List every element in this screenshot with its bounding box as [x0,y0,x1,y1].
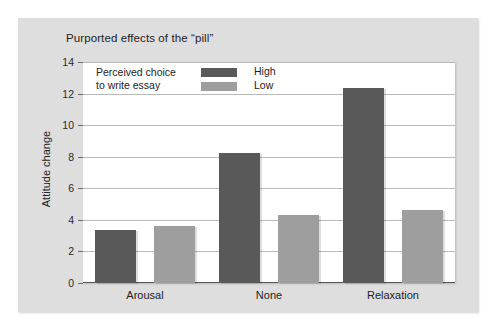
y-tick [78,283,83,284]
x-axis-label-relaxation: Relaxation [331,289,455,301]
legend-title: Perceived choice to write essay [96,66,176,92]
y-tick-label: 14 [52,56,74,68]
gridline [83,188,455,189]
x-axis-label-none: None [207,289,331,301]
gridline [83,125,455,126]
y-tick-label: 2 [52,245,74,257]
gridline [83,251,455,252]
legend-label-high: High [254,65,276,77]
y-tick [78,251,83,252]
legend-swatch-low [201,82,237,91]
y-tick [78,188,83,189]
y-tick-label: 6 [52,182,74,194]
y-tick-label: 4 [52,214,74,226]
x-axis-line [83,282,455,283]
chart-title: Purported effects of the “pill” [66,32,213,44]
y-tick [78,125,83,126]
legend-swatch-high [201,68,237,77]
figure: Purported effects of the “pill” Attitude… [0,0,498,329]
y-axis-title: Attitude change [40,109,52,229]
y-tick [78,220,83,221]
y-tick-label: 8 [52,151,74,163]
gridline [83,62,455,63]
bar-relaxation-high [343,88,384,283]
bar-arousal-high [95,230,136,283]
y-tick-label: 0 [52,277,74,289]
bar-arousal-low [154,226,195,283]
gridline [83,157,455,158]
legend-label-low: Low [254,79,273,91]
bar-relaxation-low [402,210,443,283]
gridline [83,220,455,221]
y-tick [78,62,83,63]
bar-none-low [278,215,319,283]
y-tick [78,94,83,95]
bar-none-high [219,153,260,283]
y-tick-label: 12 [52,88,74,100]
x-axis-label-arousal: Arousal [83,289,207,301]
y-tick [78,157,83,158]
chart-legend: Perceived choice to write essay High Low [96,66,276,102]
legend-title-line-1: Perceived choice [96,66,176,79]
legend-title-line-2: to write essay [96,79,176,92]
y-tick-label: 10 [52,119,74,131]
